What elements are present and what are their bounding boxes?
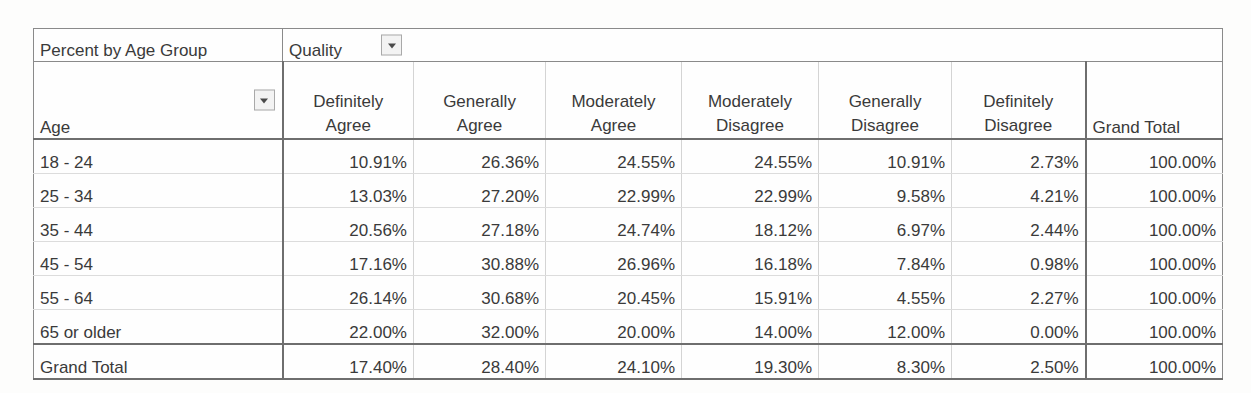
cell-generally-disagree: 6.97% [819, 208, 952, 242]
header-line-2: Agree [326, 116, 371, 135]
header-line-1: Definitely [313, 92, 383, 111]
filter-field-quality[interactable]: Quality [283, 29, 546, 62]
cell-definitely-agree: 13.03% [283, 174, 414, 208]
row-field-age[interactable]: Age [34, 62, 283, 140]
cell-generally-agree: 28.40% [414, 344, 546, 379]
column-header-row: Age Definitely Agree Generally Agree Mod… [34, 62, 1223, 140]
cell-grand-total: 100.00% [1086, 310, 1223, 345]
cell-grand-total: 100.00% [1086, 242, 1223, 276]
cell-moderately-agree: 24.55% [546, 139, 682, 174]
cell-generally-disagree: 10.91% [819, 139, 952, 174]
header-line-2: Disagree [716, 116, 784, 135]
header-line-2: Disagree [851, 116, 919, 135]
cell-generally-agree: 26.36% [414, 139, 546, 174]
table-row: 25 - 34 13.03% 27.20% 22.99% 22.99% 9.58… [34, 174, 1223, 208]
cell-definitely-disagree: 2.27% [952, 276, 1086, 310]
cell-definitely-agree: 17.40% [283, 344, 414, 379]
table-row: 35 - 44 20.56% 27.18% 24.74% 18.12% 6.97… [34, 208, 1223, 242]
grand-total-row: Grand Total 17.40% 28.40% 24.10% 19.30% … [34, 344, 1223, 379]
header-line-1: Generally [849, 92, 922, 111]
cell-definitely-disagree: 4.21% [952, 174, 1086, 208]
cell-definitely-agree: 26.14% [283, 276, 414, 310]
header-line-2: Agree [591, 116, 636, 135]
column-header-definitely-agree: Definitely Agree [283, 62, 414, 140]
cell-generally-disagree: 4.55% [819, 276, 952, 310]
cell-moderately-agree: 20.00% [546, 310, 682, 345]
row-label: 35 - 44 [34, 208, 283, 242]
row-label: 25 - 34 [34, 174, 283, 208]
column-header-generally-agree: Generally Agree [414, 62, 546, 140]
chevron-down-icon[interactable] [381, 35, 402, 56]
cell-definitely-agree: 10.91% [283, 139, 414, 174]
cell-moderately-disagree: 19.30% [682, 344, 819, 379]
cell-moderately-agree: 26.96% [546, 242, 682, 276]
row-field-label: Age [40, 118, 70, 137]
cell-definitely-disagree: 0.00% [952, 310, 1086, 345]
header-line-2: Agree [457, 116, 502, 135]
cell-grand-total: 100.00% [1086, 139, 1223, 174]
cell-moderately-disagree: 16.18% [682, 242, 819, 276]
row-label: 55 - 64 [34, 276, 283, 310]
cell-generally-agree: 30.68% [414, 276, 546, 310]
cell-generally-disagree: 12.00% [819, 310, 952, 345]
cell-grand-total: 100.00% [1086, 344, 1223, 379]
chevron-down-icon[interactable] [254, 90, 275, 111]
cell-grand-total: 100.00% [1086, 276, 1223, 310]
cell-definitely-disagree: 2.50% [952, 344, 1086, 379]
table-row: 45 - 54 17.16% 30.88% 26.96% 16.18% 7.84… [34, 242, 1223, 276]
cell-moderately-agree: 20.45% [546, 276, 682, 310]
cell-generally-disagree: 8.30% [819, 344, 952, 379]
table-row: 18 - 24 10.91% 26.36% 24.55% 24.55% 10.9… [34, 139, 1223, 174]
cell-moderately-agree: 22.99% [546, 174, 682, 208]
column-header-definitely-disagree: Definitely Disagree [952, 62, 1086, 140]
cell-generally-disagree: 9.58% [819, 174, 952, 208]
header-line-2: Disagree [984, 116, 1052, 135]
cell-definitely-disagree: 2.44% [952, 208, 1086, 242]
row-label: 65 or older [34, 310, 283, 345]
table-row: 55 - 64 26.14% 30.68% 20.45% 15.91% 4.55… [34, 276, 1223, 310]
pivot-table: Percent by Age Group Quality Age Definit… [33, 28, 1223, 380]
column-header-moderately-disagree: Moderately Disagree [682, 62, 819, 140]
header-line-1: Moderately [708, 92, 792, 111]
header-line-1: Generally [443, 92, 516, 111]
pivot-title: Percent by Age Group [34, 29, 283, 62]
cell-generally-agree: 30.88% [414, 242, 546, 276]
cell-definitely-agree: 17.16% [283, 242, 414, 276]
cell-generally-disagree: 7.84% [819, 242, 952, 276]
cell-generally-agree: 32.00% [414, 310, 546, 345]
cell-grand-total: 100.00% [1086, 208, 1223, 242]
cell-generally-agree: 27.18% [414, 208, 546, 242]
cell-moderately-disagree: 22.99% [682, 174, 819, 208]
cell-grand-total: 100.00% [1086, 174, 1223, 208]
cell-moderately-disagree: 24.55% [682, 139, 819, 174]
cell-moderately-disagree: 18.12% [682, 208, 819, 242]
header-line-1: Moderately [571, 92, 655, 111]
cell-definitely-agree: 20.56% [283, 208, 414, 242]
column-header-grand-total: Grand Total [1086, 62, 1223, 140]
header-line-1: Definitely [983, 92, 1053, 111]
cell-definitely-disagree: 0.98% [952, 242, 1086, 276]
cell-moderately-agree: 24.74% [546, 208, 682, 242]
row-label: 18 - 24 [34, 139, 283, 174]
filter-field-label: Quality [289, 41, 342, 60]
row-label: Grand Total [34, 344, 283, 379]
column-header-moderately-agree: Moderately Agree [546, 62, 682, 140]
cell-moderately-agree: 24.10% [546, 344, 682, 379]
cell-moderately-disagree: 15.91% [682, 276, 819, 310]
row-label: 45 - 54 [34, 242, 283, 276]
column-header-generally-disagree: Generally Disagree [819, 62, 952, 140]
cell-generally-agree: 27.20% [414, 174, 546, 208]
cell-moderately-disagree: 14.00% [682, 310, 819, 345]
filter-row-blank [546, 29, 1223, 62]
cell-definitely-disagree: 2.73% [952, 139, 1086, 174]
cell-definitely-agree: 22.00% [283, 310, 414, 345]
table-row: 65 or older 22.00% 32.00% 20.00% 14.00% … [34, 310, 1223, 345]
report-filter-row: Percent by Age Group Quality [34, 29, 1223, 62]
